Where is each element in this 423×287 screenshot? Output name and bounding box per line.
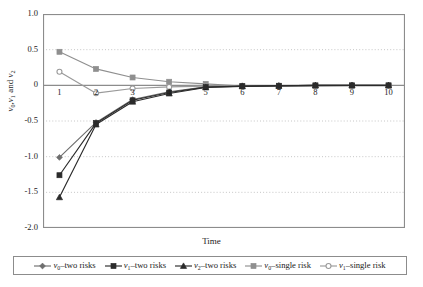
y-axis-title-text: v0,v1 and v2	[5, 71, 15, 112]
legend-swatch-triangle-icon	[175, 261, 192, 271]
y-tick-label: 1.0	[8, 9, 38, 18]
data-point-marker	[56, 194, 62, 200]
x-axis-title: Time	[0, 236, 423, 246]
figure: 1.00.50-0.5-1.0-1.5-2.0 12345678910 Time…	[0, 0, 423, 287]
legend-item-v1-single-risk[interactable]: v1–single risk	[320, 260, 386, 271]
data-point-marker	[130, 75, 135, 80]
data-point-marker	[57, 173, 62, 178]
legend-swatch-square-icon	[245, 261, 262, 271]
x-tick-label: 10	[381, 88, 397, 97]
series-v2-two-risks	[56, 82, 391, 200]
chart-legend: v0–two risksv1–two risksv2–two risksv0–s…	[13, 256, 407, 275]
series-v1-single-risk	[57, 69, 391, 95]
legend-label: v0–two risks	[53, 260, 95, 271]
x-tick-label: 7	[271, 88, 287, 97]
chart-canvas	[43, 14, 405, 228]
legend-swatch-circle-icon	[320, 261, 337, 271]
data-point-marker	[40, 263, 46, 269]
data-point-marker	[94, 66, 99, 71]
data-point-marker	[57, 49, 62, 54]
x-tick-label: 8	[307, 88, 323, 97]
x-tick-label: 1	[51, 88, 67, 97]
series-line	[59, 85, 388, 197]
x-tick-label: 9	[344, 88, 360, 97]
legend-item-v1-two-risks[interactable]: v1–two risks	[105, 260, 166, 271]
data-point-marker	[326, 263, 331, 268]
data-point-marker	[167, 79, 172, 84]
series-line	[59, 72, 388, 93]
x-axis-title-text: Time	[202, 236, 221, 246]
legend-label: v1–single risk	[339, 260, 386, 271]
y-tick-label: -1.5	[8, 187, 38, 196]
legend-label: v0–single risk	[264, 260, 311, 271]
legend-item-v0-single-risk[interactable]: v0–single risk	[245, 260, 311, 271]
data-point-marker	[57, 69, 62, 74]
x-tick-label: 6	[234, 88, 250, 97]
legend-item-v2-two-risks[interactable]: v2–two risks	[175, 260, 236, 271]
y-tick-label: -1.0	[8, 152, 38, 161]
series-v1-two-risks	[57, 83, 391, 178]
x-tick-label: 2	[88, 88, 104, 97]
legend-swatch-square-icon	[105, 261, 122, 271]
x-tick-label: 3	[125, 88, 141, 97]
legend-item-v0-two-risks[interactable]: v0–two risks	[34, 260, 95, 271]
y-tick-label: -2.0	[8, 223, 38, 232]
series-v0-single-risk	[57, 49, 391, 88]
data-point-marker	[251, 263, 256, 268]
x-tick-label: 5	[198, 88, 214, 97]
legend-swatch-diamond-icon	[34, 261, 51, 271]
x-tick-label: 4	[161, 88, 177, 97]
data-point-marker	[111, 263, 116, 268]
legend-label: v2–two risks	[194, 260, 236, 271]
y-axis-title: v0,v1 and v2	[5, 46, 15, 136]
series-line	[59, 52, 388, 86]
series-line	[59, 85, 388, 175]
legend-label: v1–two risks	[124, 260, 166, 271]
plot-area	[43, 14, 405, 228]
